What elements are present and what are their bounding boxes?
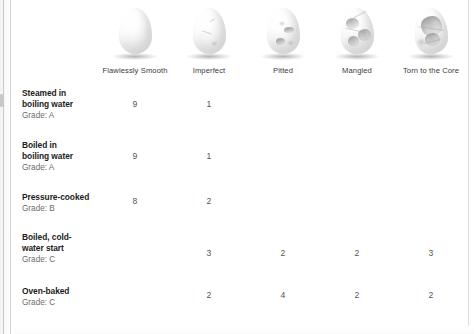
table-row: Boiled in boiling water Grade: A 9 1 (0, 140, 474, 186)
table-row: Steamed in boiling water Grade: A 9 1 (0, 88, 474, 134)
row-name-line2: water start (22, 243, 118, 254)
table-cell: 2 (172, 196, 246, 206)
table-cell: 3 (172, 248, 246, 258)
table-cell: 9 (98, 99, 172, 109)
egg-pit (287, 40, 294, 46)
table-cell: 2 (246, 248, 320, 258)
egg-pit (279, 21, 285, 26)
table-cell: 2 (394, 290, 468, 300)
table-row: Boiled, cold- water start Grade: C 3 2 2… (0, 232, 474, 278)
table-column-header-row: Flawlessly Smooth Imperfect (0, 0, 474, 86)
egg-pit (284, 27, 294, 33)
row-grade: Grade: A (22, 162, 118, 173)
egg-shadow (112, 53, 158, 60)
row-name-line1: Steamed in (22, 88, 118, 99)
scanned-page: Flawlessly Smooth Imperfect (0, 0, 474, 334)
table-column-header-pitted: Pitted (246, 0, 320, 86)
table-row: Pressure-cooked Grade: B 8 2 (0, 192, 474, 226)
egg-pitted-icon (246, 2, 320, 62)
row-grade: Grade: A (22, 110, 118, 121)
egg-crack (354, 11, 367, 18)
row-name-line1: Boiled, cold- (22, 232, 118, 243)
column-header-label: Pitted (246, 66, 320, 76)
egg-blemish (417, 38, 426, 46)
egg-mangled-icon (320, 2, 394, 62)
table-cell: 2 (320, 248, 394, 258)
table-cell: 1 (172, 99, 246, 109)
table-column-header-flawlessly-smooth: Flawlessly Smooth (98, 0, 172, 86)
egg-blemish (209, 18, 214, 22)
egg-shadow (334, 53, 380, 60)
column-header-label: Imperfect (172, 66, 246, 76)
table-cell: 9 (98, 151, 172, 161)
egg-shadow (260, 53, 306, 60)
table-cell: 2 (320, 290, 394, 300)
row-grade: Grade: C (22, 254, 118, 265)
column-header-label: Flawlessly Smooth (98, 66, 172, 76)
page-bottom-fade (14, 326, 474, 334)
egg-body (119, 8, 152, 54)
egg-torn-icon (394, 2, 468, 62)
table-cell: 8 (98, 196, 172, 206)
egg-shadow (408, 53, 454, 60)
egg-body (193, 8, 226, 54)
row-name-line1: Oven-baked (22, 286, 118, 297)
row-label: Oven-baked Grade: C (22, 286, 118, 308)
egg-body (267, 8, 300, 54)
table-row: Oven-baked Grade: C 2 4 2 2 (0, 286, 474, 320)
egg-flawless-icon (98, 2, 172, 62)
table-column-header-torn-to-the-core: Torn to the Core (394, 0, 468, 86)
egg-shadow (186, 53, 232, 60)
egg-pit (276, 38, 285, 45)
egg-blemish (211, 41, 218, 46)
egg-tear (348, 36, 359, 46)
table-column-header-mangled: Mangled (320, 0, 394, 86)
table-cell: 2 (172, 290, 246, 300)
egg-body (415, 8, 448, 54)
table-column-header-imperfect: Imperfect (172, 0, 246, 86)
egg-body (341, 8, 374, 54)
row-label: Boiled, cold- water start Grade: C (22, 232, 118, 265)
column-header-label: Torn to the Core (388, 66, 474, 76)
table-cell: 1 (172, 151, 246, 161)
row-grade: Grade: C (22, 297, 118, 308)
egg-blemish (202, 30, 212, 34)
row-name-line1: Boiled in (22, 140, 118, 151)
column-header-label: Mangled (320, 66, 394, 76)
table-cell: 4 (246, 290, 320, 300)
table-cell: 3 (394, 248, 468, 258)
egg-imperfect-icon (172, 2, 246, 62)
